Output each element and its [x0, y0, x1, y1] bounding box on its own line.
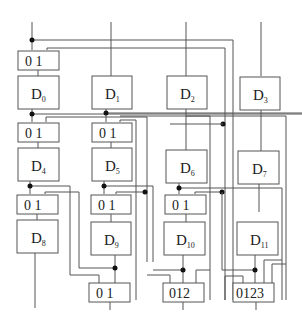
junction-dot	[143, 190, 148, 195]
wire	[116, 192, 145, 194]
junction-dot	[177, 186, 182, 191]
junction-dot	[253, 268, 258, 273]
circuit-diagram: 0 1 D0 D1 D2 D3 0 1 0 1 D4 D5 D6 D7	[0, 0, 302, 328]
junction-dot	[113, 266, 118, 271]
junction-dot	[104, 111, 109, 116]
junction-dot	[181, 268, 186, 273]
mux-row3-col2-label: 0 1	[172, 198, 190, 213]
wire	[147, 275, 170, 283]
mux-row2-col0-label: 0 1	[25, 126, 43, 141]
junction-dot	[30, 112, 35, 117]
mux-out-2-label: 012	[169, 286, 190, 301]
mux-out-1-label: 0 1	[96, 286, 114, 301]
junction-dot	[30, 38, 35, 43]
mux-row1-col0-label: 0 1	[25, 54, 43, 69]
wire	[264, 260, 282, 283]
wire	[196, 270, 210, 283]
junction-dot	[102, 184, 107, 189]
mux-row3-col0-label: 0 1	[24, 198, 42, 213]
mux-row3-col1-label: 0 1	[98, 198, 116, 213]
wire	[195, 192, 222, 194]
junction-dot	[28, 184, 33, 189]
mux-row2-col1-label: 0 1	[99, 126, 117, 141]
wire	[70, 275, 99, 283]
mux-out-3-label: 0123	[236, 286, 264, 301]
wire	[272, 264, 286, 283]
